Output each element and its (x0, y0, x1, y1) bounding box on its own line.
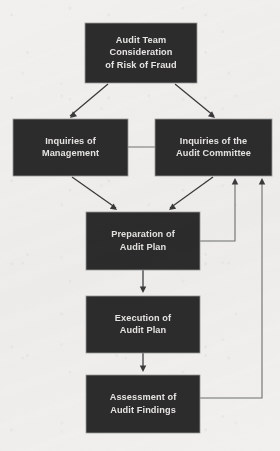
connector-preparation-feedback-to-audit-committee (200, 181, 235, 241)
node-label-preparation-of-audit-plan-line-1: Preparation of (111, 229, 176, 239)
flowchart-canvas: Audit TeamConsiderationof Risk of FraudI… (0, 0, 280, 451)
node-label-assessment-of-audit-findings-line-2: Audit Findings (110, 405, 176, 415)
node-label-audit-team-consideration-line-2: Consideration (109, 47, 172, 57)
node-label-execution-of-audit-plan-line-1: Execution of (115, 313, 172, 323)
node-execution-of-audit-plan: Execution ofAudit Plan (86, 296, 200, 353)
node-layer: Audit TeamConsiderationof Risk of FraudI… (13, 23, 272, 433)
node-assessment-of-audit-findings: Assessment ofAudit Findings (86, 375, 200, 433)
connector-consideration-to-audit-committee (175, 84, 214, 116)
node-inquiries-of-audit-committee: Inquiries of theAudit Committee (155, 119, 272, 176)
arrow-head (140, 287, 146, 294)
arrow-head (232, 178, 238, 185)
connector-assessment-feedback-to-audit-committee (200, 181, 262, 398)
node-label-execution-of-audit-plan-line-2: Audit Plan (120, 325, 167, 335)
node-label-preparation-of-audit-plan-line-2: Audit Plan (120, 242, 167, 252)
node-label-audit-team-consideration-line-1: Audit Team (116, 35, 166, 45)
node-label-assessment-of-audit-findings-line-1: Assessment of (110, 392, 177, 402)
node-preparation-of-audit-plan: Preparation ofAudit Plan (86, 212, 200, 270)
node-audit-team-consideration: Audit TeamConsiderationof Risk of Fraud (85, 23, 197, 83)
arrow-head (140, 366, 146, 373)
connector-consideration-to-management (70, 84, 108, 116)
node-label-audit-team-consideration-line-3: of Risk of Fraud (105, 60, 177, 70)
node-inquiries-of-management: Inquiries ofManagement (13, 119, 128, 176)
node-label-inquiries-of-audit-committee-line-1: Inquiries of the (180, 136, 247, 146)
connector-audit-committee-to-preparation (170, 177, 213, 208)
audit-fraud-flowchart: Audit TeamConsiderationof Risk of FraudI… (0, 0, 280, 451)
arrow-head (259, 178, 265, 185)
connector-management-to-preparation (72, 177, 116, 208)
node-label-inquiries-of-audit-committee-line-2: Audit Committee (176, 148, 251, 158)
node-label-inquiries-of-management-line-1: Inquiries of (45, 136, 97, 146)
node-label-inquiries-of-management-line-2: Management (42, 148, 99, 158)
